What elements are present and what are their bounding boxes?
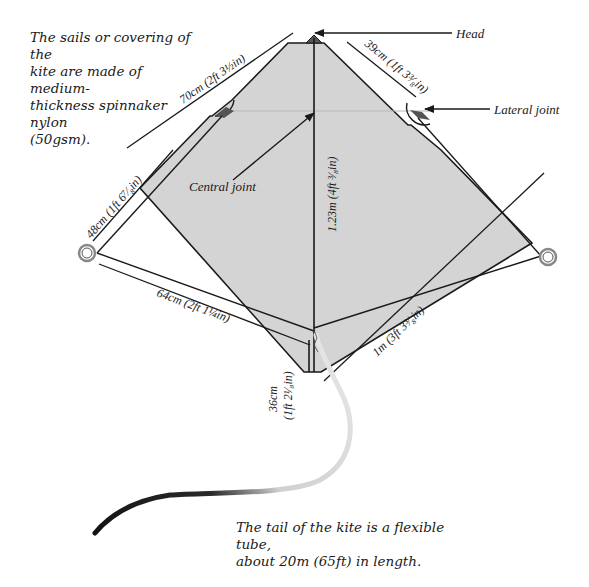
lateral-joint-label: Lateral joint: [493, 102, 560, 117]
left-bridle-ring: [79, 245, 95, 261]
dim-tail-segment-label-1: 36cm: [266, 386, 280, 413]
tail-caption-line: The tail of the kite is a flexible tube,: [236, 519, 466, 553]
dim-spine-label: 1.23m (4ft ³⁄₈in): [325, 157, 339, 232]
head-label: Head: [455, 26, 485, 41]
dim-left-bridle-label: 48cm (1ft 6⁷⁄₈in): [83, 173, 145, 241]
tail-caption-line: about 20m (65ft) in length.: [236, 553, 466, 570]
tail-caption: The tail of the kite is a flexible tube,…: [236, 519, 466, 570]
kite-diagram: Head Lateral joint Central joint 70cm (2…: [0, 0, 589, 587]
dim-tail-segment-label-2: (1ft 2¹⁄₈in): [281, 371, 295, 420]
central-joint-label: Central joint: [189, 179, 256, 194]
dim-top-right-edge-label: 39cm (1ft 3³⁄₈in): [361, 36, 431, 96]
right-bridle-ring: [540, 249, 556, 265]
dim-lower-bridle-label: 64cm (2ft 1¼in): [155, 286, 232, 325]
